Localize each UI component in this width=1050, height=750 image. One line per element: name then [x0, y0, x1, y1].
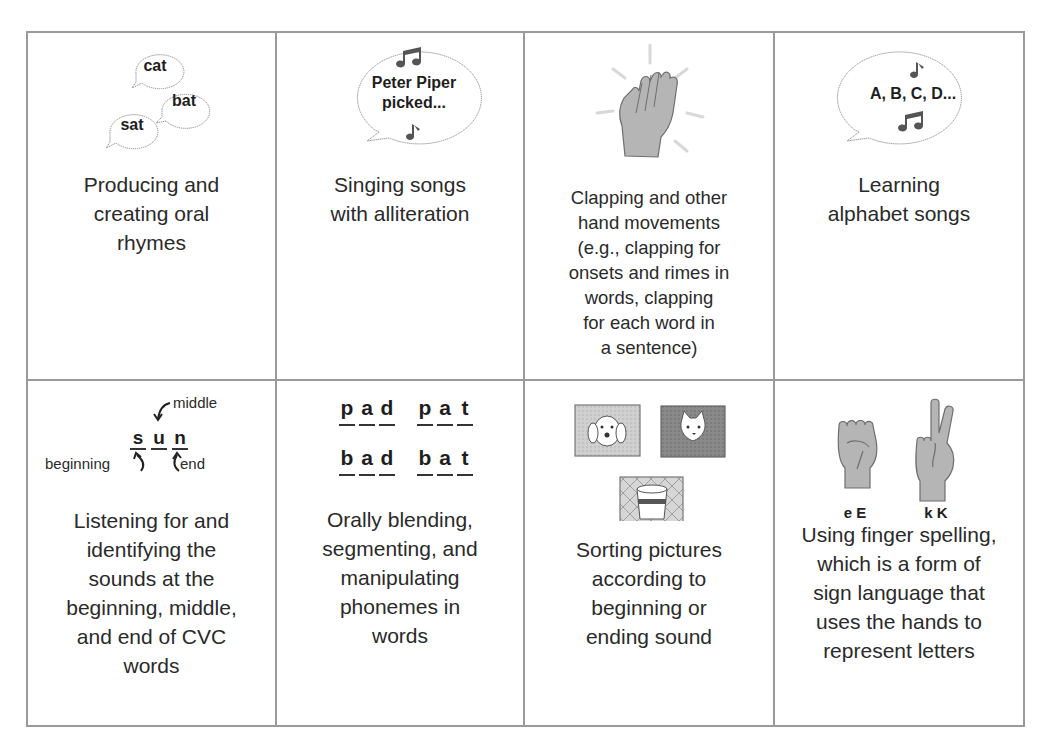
- tile-letter: p: [341, 396, 354, 419]
- caption-line: Orally blending,: [277, 505, 523, 534]
- label-middle: middle: [173, 394, 217, 411]
- caption-line: manipulating: [277, 563, 523, 592]
- cell-cvc-sounds: middle beginning end s u n Listening for…: [28, 381, 275, 725]
- hand-sign-k: [916, 399, 954, 501]
- caption-line: identifying the: [28, 535, 275, 564]
- letter-u: u: [153, 427, 165, 448]
- caption-line: Sorting pictures: [525, 535, 773, 564]
- cell-finger-spelling: e E k K Using finger spelling, which is …: [775, 381, 1023, 725]
- label-beginning: beginning: [45, 455, 110, 472]
- tile-letter: p: [419, 396, 432, 419]
- cell-rhymes: cat bat sat Producing and creating oral …: [28, 33, 275, 379]
- caption-line: and end of CVC: [28, 622, 275, 651]
- cell-alphabet: A, B, C, D... Learning alphabet songs: [775, 33, 1023, 379]
- sign-language-hands-icon: e E k K: [775, 381, 1023, 521]
- caption-alliteration: Singing songs with alliteration: [277, 170, 523, 228]
- caption-line: hand movements: [525, 210, 773, 235]
- caption-line: according to: [525, 564, 773, 593]
- caption-line: beginning, middle,: [28, 593, 275, 622]
- caption-line: alphabet songs: [775, 199, 1023, 228]
- tile-letter: d: [381, 446, 394, 469]
- label-end: end: [180, 455, 205, 472]
- caption-line: which is a form of: [775, 549, 1023, 578]
- caption-line: phonemes in: [277, 592, 523, 621]
- caption-line: Clapping and other: [525, 185, 773, 210]
- caption-sorting: Sorting pictures according to beginning …: [525, 535, 773, 651]
- tile-letter: d: [381, 396, 394, 419]
- caption-alphabet: Learning alphabet songs: [775, 170, 1023, 228]
- caption-line: a sentence): [525, 335, 773, 360]
- cell-alliteration: Peter Piper picked... Singing songs with…: [277, 33, 523, 379]
- caption-line: Listening for and: [28, 506, 275, 535]
- caption-line: onsets and rimes in: [525, 260, 773, 285]
- caption-line: (e.g., clapping for: [525, 235, 773, 260]
- letter-n: n: [174, 427, 186, 448]
- tile-letter: a: [439, 446, 451, 469]
- singing-bubble-icon: Peter Piper picked...: [277, 33, 523, 153]
- tile-letter: a: [361, 446, 373, 469]
- tile-letter: a: [439, 396, 451, 419]
- tile-word: pad: [339, 396, 395, 425]
- caption-line: words: [277, 621, 523, 650]
- caption-line: uses the hands to: [775, 607, 1023, 636]
- caption-line: Learning: [775, 170, 1023, 199]
- caption-line: words, clapping: [525, 285, 773, 310]
- caption-line: with alliteration: [277, 199, 523, 228]
- bubble-text-line: picked...: [382, 94, 446, 111]
- letter-s: s: [133, 427, 144, 448]
- caption-line: represent letters: [775, 636, 1023, 665]
- cell-sorting: Sorting pictures according to beginning …: [525, 381, 773, 725]
- tile-letter: t: [462, 446, 469, 469]
- bubble-text-cat: cat: [143, 57, 167, 74]
- caption-clapping: Clapping and other hand movements (e.g.,…: [525, 185, 773, 360]
- hand-shape: [620, 72, 678, 157]
- clapping-hand-icon: [525, 33, 773, 163]
- caption-line: Singing songs: [277, 170, 523, 199]
- caption-line: Using finger spelling,: [775, 520, 1023, 549]
- caption-line: creating oral: [28, 199, 275, 228]
- alphabet-song-bubble-icon: A, B, C, D...: [775, 33, 1023, 153]
- caption-rhymes: Producing and creating oral rhymes: [28, 170, 275, 257]
- caption-line: words: [28, 651, 275, 680]
- tile-word: bad: [339, 446, 395, 475]
- caption-cvc-sounds: Listening for and identifying the sounds…: [28, 506, 275, 680]
- caption-line: for each word in: [525, 310, 773, 335]
- picture-cards-icon: [525, 381, 773, 521]
- caption-line: ending sound: [525, 622, 773, 651]
- picture-card-cat: [661, 406, 725, 457]
- cell-clapping: Clapping and other hand movements (e.g.,…: [525, 33, 773, 379]
- tile-letter: b: [419, 446, 432, 469]
- bubble-text-bat: bat: [172, 92, 197, 109]
- sign-label-k: k K: [924, 504, 948, 521]
- tile-word: pat: [417, 396, 473, 425]
- caption-line: Producing and: [28, 170, 275, 199]
- tile-word: bat: [417, 446, 473, 475]
- bubble-text-sat: sat: [120, 116, 144, 133]
- picture-card-dog: [575, 405, 640, 456]
- hand-sign-e: [838, 421, 877, 489]
- sign-label-e: e E: [844, 504, 867, 521]
- caption-line: rhymes: [28, 228, 275, 257]
- sun-word-diagram-icon: middle beginning end s u n: [28, 381, 275, 491]
- picture-card-cup: [620, 477, 683, 521]
- caption-finger-spelling: Using finger spelling, which is a form o…: [775, 520, 1023, 665]
- tile-letter: t: [462, 396, 469, 419]
- speech-bubbles-rhyme-icon: cat bat sat: [28, 33, 275, 153]
- bubble-text-line: Peter Piper: [372, 74, 456, 91]
- tile-letter: b: [341, 446, 354, 469]
- letter-tiles-icon: padpatbadbat: [277, 381, 523, 491]
- caption-line: sign language that: [775, 578, 1023, 607]
- caption-phonemes: Orally blending, segmenting, and manipul…: [277, 505, 523, 650]
- bubble-text-line: A, B, C, D...: [870, 85, 956, 102]
- caption-line: sounds at the: [28, 564, 275, 593]
- tile-letter: a: [361, 396, 373, 419]
- cell-phonemes: padpatbadbat Orally blending, segmenting…: [277, 381, 523, 725]
- caption-line: segmenting, and: [277, 534, 523, 563]
- caption-line: beginning or: [525, 593, 773, 622]
